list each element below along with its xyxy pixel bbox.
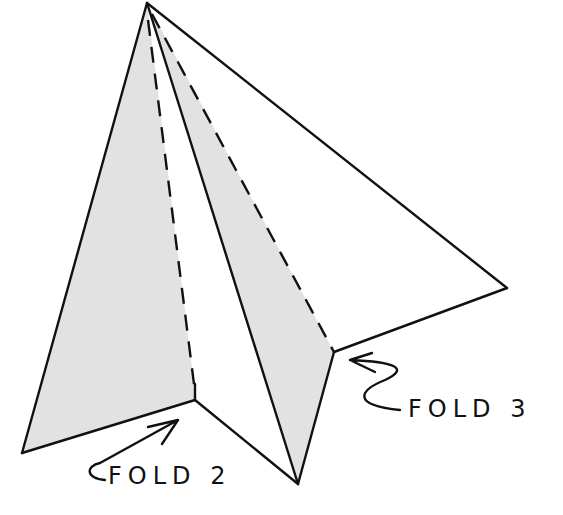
fold-3-label: FOLD 3 (408, 395, 531, 423)
fold-2-label: FOLD 2 (108, 462, 231, 490)
paper-airplane-diagram (0, 0, 563, 515)
right-wing-bottom-edge (334, 288, 507, 352)
fold3-arrow-icon (350, 353, 400, 410)
